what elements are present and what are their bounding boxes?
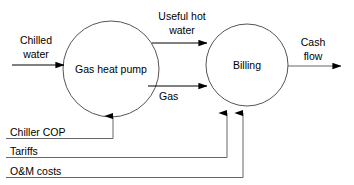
flow-label-cash-flow-line1: Cash [291, 36, 335, 48]
flow-label-useful-hot-water-line1: Useful hot [146, 10, 218, 22]
flow-label-gas: Gas [159, 90, 178, 102]
node-label-gas-heat-pump: Gas heat pump [63, 63, 159, 75]
flow-label-cash-flow-line2: flow [291, 50, 335, 62]
input-label-tariffs: Tariffs [10, 145, 38, 157]
flow-diagram-canvas: Gas heat pump Billing Chilled water Usef… [0, 0, 354, 185]
flow-label-chilled-water-line2: water [5, 48, 67, 60]
flow-label-chilled-water-line1: Chilled [5, 34, 67, 46]
input-label-chiller-cop: Chiller COP [10, 126, 65, 138]
node-label-billing: Billing [207, 59, 287, 71]
input-label-om-costs: O&M costs [10, 165, 61, 177]
flow-label-useful-hot-water-line2: water [146, 24, 218, 36]
